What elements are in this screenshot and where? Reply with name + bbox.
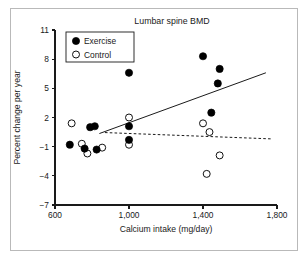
data-point-control-7 xyxy=(206,129,213,136)
legend-marker-control xyxy=(73,51,80,58)
y-tick-label-3: 2 xyxy=(44,113,49,123)
data-point-control-9 xyxy=(203,170,210,177)
y-tick-label-6: 11 xyxy=(40,25,49,35)
chart-title: Lumbar spine BMD xyxy=(134,16,209,26)
y-tick-label-2: −1 xyxy=(39,142,49,152)
chart-figure: −7−4−1258116001,0001,4001,800Calcium int… xyxy=(0,0,308,259)
data-point-exercise-9 xyxy=(216,65,223,72)
data-point-exercise-2 xyxy=(91,123,98,130)
data-point-control-6 xyxy=(200,120,207,127)
data-point-exercise-6 xyxy=(125,123,132,130)
x-tick-label-3: 1,800 xyxy=(267,210,288,220)
data-point-exercise-0 xyxy=(66,141,73,148)
legend-label-control: Control xyxy=(84,50,111,60)
fit-line-exercise xyxy=(99,73,266,134)
y-tick-label-4: 5 xyxy=(44,83,49,93)
data-point-exercise-3 xyxy=(81,145,88,152)
data-point-exercise-5 xyxy=(125,69,132,76)
data-point-exercise-7 xyxy=(125,136,132,143)
x-tick-label-0: 600 xyxy=(48,210,62,220)
data-point-exercise-10 xyxy=(214,80,221,87)
x-tick-label-2: 1,400 xyxy=(193,210,214,220)
y-axis-title: Percent change per year xyxy=(12,70,22,164)
x-axis-title: Calcium intake (mg/day) xyxy=(120,224,213,234)
data-point-exercise-4 xyxy=(93,146,100,153)
data-point-exercise-11 xyxy=(208,109,215,116)
data-point-control-8 xyxy=(216,152,223,159)
x-tick-label-1: 1,000 xyxy=(119,210,140,220)
data-point-control-4 xyxy=(126,114,133,121)
legend-marker-exercise xyxy=(72,37,79,44)
legend-label-exercise: Exercise xyxy=(84,36,116,46)
data-point-control-0 xyxy=(68,120,75,127)
data-point-exercise-8 xyxy=(199,53,206,60)
y-tick-label-1: −4 xyxy=(39,171,49,181)
scatter-plot: −7−4−1258116001,0001,4001,800Calcium int… xyxy=(0,0,308,259)
y-tick-label-5: 8 xyxy=(44,54,49,64)
y-tick-label-0: −7 xyxy=(39,200,49,210)
